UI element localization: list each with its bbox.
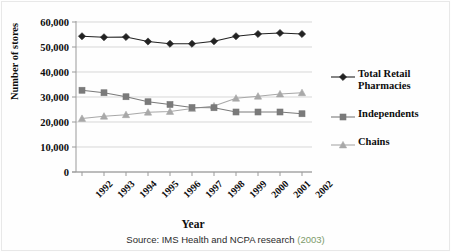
- x-tick-1999: 1999: [247, 178, 269, 200]
- datapoint-total-retail-pharmacies-2002: [298, 30, 305, 37]
- triangle-icon: [330, 137, 356, 149]
- datapoint-total-retail-pharmacies-1994: [122, 33, 129, 40]
- x-tick-1992: 1992: [93, 178, 115, 200]
- datapoint-independents-1999: [233, 109, 239, 115]
- datapoint-independents-1998: [211, 105, 217, 111]
- datapoint-independents-2000: [255, 109, 261, 115]
- square-icon: [330, 109, 356, 121]
- x-tick-1993: 1993: [115, 178, 137, 200]
- x-axis-title: Year: [76, 218, 310, 230]
- x-tick-2002: 2002: [313, 178, 335, 200]
- chart-figure: Number of stores 60,000 50,000 40,000 30…: [0, 0, 451, 252]
- x-tick-1998: 1998: [225, 178, 247, 200]
- datapoint-independents-1994: [123, 94, 129, 100]
- datapoint-independents-1997: [189, 105, 195, 111]
- datapoint-independents-1996: [167, 102, 173, 108]
- plot-svg: [76, 22, 310, 172]
- x-tick-1994: 1994: [137, 178, 159, 200]
- legend-item-independents[interactable]: Independents: [330, 108, 419, 121]
- datapoint-total-retail-pharmacies-1998: [210, 38, 217, 45]
- y-tick-60000: 60,000: [7, 17, 69, 28]
- y-tick-20000: 20,000: [7, 117, 69, 128]
- y-tick-50000: 50,000: [7, 42, 69, 53]
- y-tick-0: 0: [7, 167, 69, 178]
- legend-item-total-retail-pharmacies[interactable]: Total Retail Pharmacies: [330, 68, 446, 91]
- datapoint-total-retail-pharmacies-1995: [144, 38, 151, 45]
- legend-label: Total Retail Pharmacies: [356, 68, 446, 91]
- y-tick-40000: 40,000: [7, 67, 69, 78]
- datapoint-independents-1992: [79, 87, 85, 93]
- y-tick-10000: 10,000: [7, 142, 69, 153]
- datapoint-total-retail-pharmacies-2001: [276, 29, 283, 36]
- datapoint-total-retail-pharmacies-1992: [78, 33, 85, 40]
- datapoint-total-retail-pharmacies-1997: [188, 40, 195, 47]
- datapoint-independents-1993: [101, 90, 107, 96]
- source-text: Source: IMS Health and NCPA research: [126, 234, 297, 245]
- source-year: (2003): [297, 234, 324, 245]
- x-tick-2001: 2001: [291, 178, 313, 200]
- datapoint-independents-2001: [277, 109, 283, 115]
- legend-label: Chains: [356, 136, 390, 148]
- datapoint-total-retail-pharmacies-1993: [100, 34, 107, 41]
- x-tick-1996: 1996: [181, 178, 203, 200]
- legend-label: Independents: [356, 108, 419, 120]
- y-axis: Number of stores 60,000 50,000 40,000 30…: [0, 0, 76, 172]
- datapoint-total-retail-pharmacies-2000: [254, 30, 261, 37]
- datapoint-total-retail-pharmacies-1999: [232, 33, 239, 40]
- plot-area: [76, 22, 310, 172]
- y-tick-30000: 30,000: [7, 92, 69, 103]
- legend-marker: [340, 114, 346, 120]
- datapoint-independents-2002: [299, 111, 305, 117]
- diamond-icon: [330, 69, 356, 81]
- datapoint-independents-1995: [145, 99, 151, 105]
- legend-marker: [339, 73, 346, 80]
- legend-item-chains[interactable]: Chains: [330, 136, 390, 149]
- x-tick-1997: 1997: [203, 178, 225, 200]
- source-note: Source: IMS Health and NCPA research (20…: [0, 234, 451, 245]
- x-tick-2000: 2000: [269, 178, 291, 200]
- datapoint-total-retail-pharmacies-1996: [166, 40, 173, 47]
- x-tick-1995: 1995: [159, 178, 181, 200]
